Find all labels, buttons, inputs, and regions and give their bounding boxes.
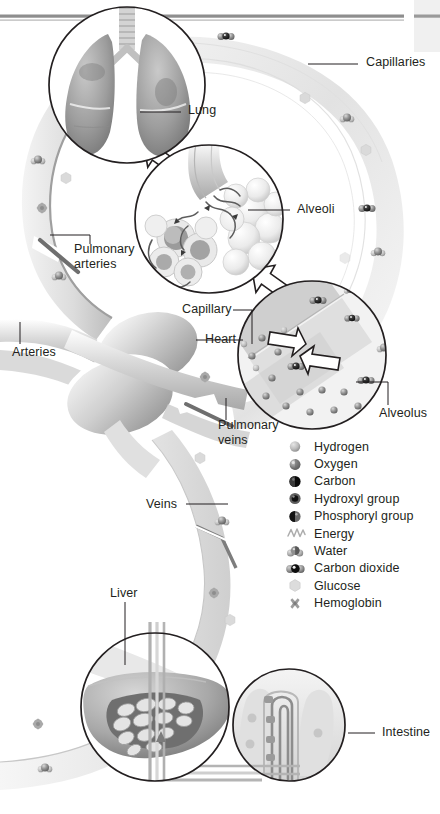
sphere-dark-ring-icon bbox=[286, 490, 314, 507]
glucose-hexagon-icon bbox=[286, 577, 314, 594]
legend-item-energy: Energy bbox=[286, 525, 438, 542]
label-lung: Lung bbox=[188, 103, 216, 117]
carbon-dioxide-molecule-icon bbox=[286, 560, 314, 577]
energy-squiggle-icon bbox=[286, 525, 314, 542]
legend-label: Water bbox=[314, 544, 347, 558]
label-pulmonary-arteries: Pulmonary arteries bbox=[74, 242, 135, 271]
label-capillaries: Capillaries bbox=[366, 55, 425, 69]
legend-label: Oxygen bbox=[314, 457, 358, 471]
label-alveoli: Alveoli bbox=[297, 202, 335, 216]
label-veins: Veins bbox=[146, 497, 177, 511]
figure-canvas bbox=[0, 0, 440, 814]
sphere-black-icon bbox=[286, 473, 314, 490]
legend-label: Hydroxyl group bbox=[314, 492, 399, 506]
legend-label: Hydrogen bbox=[314, 440, 369, 454]
circulatory-respiratory-figure: Capillaries Lung Alveoli Pulmonary arter… bbox=[0, 0, 440, 814]
legend-item-carbon-dioxide: Carbon dioxide bbox=[286, 560, 438, 577]
legend-item-phosphoryl-group: Phosphoryl group bbox=[286, 508, 438, 525]
legend-item-hydroxyl-group: Hydroxyl group bbox=[286, 490, 438, 507]
legend-label: Glucose bbox=[314, 579, 361, 593]
label-liver: Liver bbox=[110, 586, 138, 600]
legend-item-hydrogen: Hydrogen bbox=[286, 438, 438, 455]
legend-label: Carbon bbox=[314, 474, 356, 488]
lung-inset bbox=[49, 0, 205, 163]
label-arteries: Arteries bbox=[12, 345, 56, 359]
legend-label: Carbon dioxide bbox=[314, 561, 399, 575]
legend-item-oxygen: Oxygen bbox=[286, 455, 438, 472]
sphere-medium-icon bbox=[286, 456, 314, 473]
label-alveolus: Alveolus bbox=[379, 406, 427, 420]
legend-item-water: Water bbox=[286, 542, 438, 559]
label-heart: Heart bbox=[205, 332, 236, 346]
label-pulmonary-veins: Pulmonary veins bbox=[218, 418, 279, 447]
hemoglobin-cross-icon bbox=[286, 595, 314, 612]
legend-label: Hemoglobin bbox=[314, 596, 382, 610]
legend-label: Phosphoryl group bbox=[314, 509, 414, 523]
legend: Hydrogen Oxygen bbox=[286, 438, 438, 612]
intestine-inset bbox=[233, 669, 345, 782]
heart-illustration bbox=[0, 298, 250, 478]
sphere-half-dark-icon bbox=[286, 508, 314, 525]
water-molecule-icon bbox=[286, 543, 314, 560]
sphere-light-icon bbox=[286, 438, 314, 455]
label-capillary: Capillary bbox=[182, 302, 232, 316]
legend-item-glucose: Glucose bbox=[286, 577, 438, 594]
legend-label: Energy bbox=[314, 527, 354, 541]
legend-item-carbon: Carbon bbox=[286, 473, 438, 490]
label-intestine: Intestine bbox=[382, 725, 430, 739]
legend-item-hemoglobin: Hemoglobin bbox=[286, 595, 438, 612]
